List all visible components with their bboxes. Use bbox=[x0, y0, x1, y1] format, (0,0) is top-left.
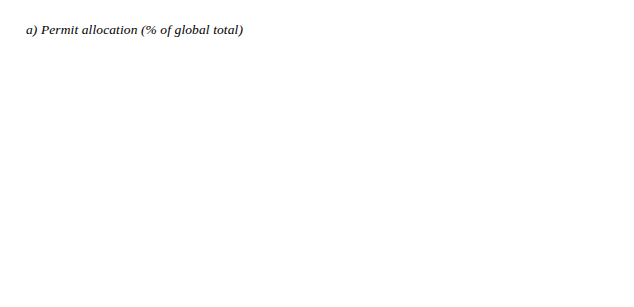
panel-a-title: a) Permit allocation (% of global total) bbox=[26, 22, 243, 38]
panel-b: b) Income received from sales of excess … bbox=[317, 0, 634, 307]
figure-root: a) Permit allocation (% of global total)… bbox=[0, 0, 634, 307]
panel-a: a) Permit allocation (% of global total) bbox=[0, 0, 317, 307]
panel-a-plot bbox=[63, 56, 285, 214]
